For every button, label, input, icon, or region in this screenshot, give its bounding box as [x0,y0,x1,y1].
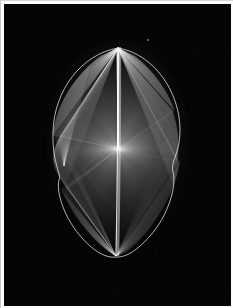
string-art-figure [4,4,231,306]
scanned-page [0,0,233,308]
emulsion-speck [147,39,149,41]
black-plate [4,4,231,306]
plate-frame [4,4,231,306]
